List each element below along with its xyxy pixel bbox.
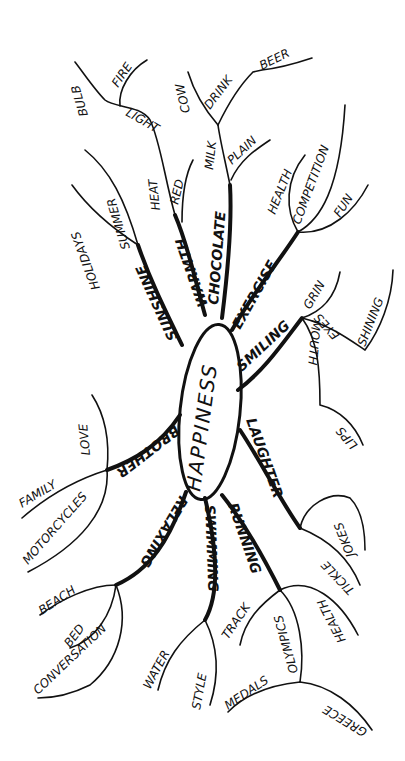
branch-label: LAUGHTER <box>243 416 286 500</box>
leaf-label: STYLE <box>189 672 210 711</box>
leaf-label: COMPETITION <box>290 143 332 226</box>
branch-sunshine: SUNSHINE HOLIDAYS SUMMER <box>68 150 182 345</box>
branch-label: RELAXING <box>137 493 191 569</box>
leaf-label: OLYMPICS <box>271 613 301 675</box>
leaf-label: COW <box>172 81 192 114</box>
branch-label: RUNNING <box>225 501 264 576</box>
branch-label: EXERCISE <box>229 257 280 331</box>
leaf-label: FIRE <box>109 60 136 90</box>
branch-label: SWIMMING <box>202 504 222 592</box>
mind-map: HAPPINESS SUNSHINE HOLIDAYS SUMMER WARMT… <box>0 0 405 761</box>
leaf-label: LIGHT <box>124 105 164 136</box>
leaf-label: TICKLE <box>318 558 357 598</box>
leaf-label: RED <box>167 178 187 206</box>
leaf-label: HOLIDAYS <box>68 229 102 292</box>
leaf-label: TRACK <box>219 600 254 642</box>
branch-label: WARMTH <box>172 236 211 309</box>
leaf-label: FUN <box>331 191 356 219</box>
branch-running: RUNNING TRACK OLYMPICS MEDALS GREECE HEA… <box>219 495 372 739</box>
center-node: HAPPINESS <box>171 321 249 502</box>
leaf-label: HEALTH <box>315 597 349 645</box>
leaf-label: JOKES <box>331 520 358 561</box>
branch-swimming: SWIMMING WATER STYLE <box>140 498 221 711</box>
leaf-label: GREECE <box>320 702 369 739</box>
leaf-label: GRIN <box>300 278 327 311</box>
leaf-label: WATER <box>140 648 172 692</box>
leaf-label: LIPS <box>333 424 360 452</box>
leaf-label: LOVE <box>76 423 93 456</box>
leaf-label: HEAT <box>146 177 163 211</box>
branch-label: BROTHER <box>114 423 183 481</box>
branch-label: SUNSHINE <box>132 262 180 343</box>
leaf-label: HEALTH <box>265 167 295 216</box>
leaf-label: BEACH <box>36 583 78 618</box>
leaf-label: MEDALS <box>222 673 271 713</box>
leaf-label: MILK <box>202 139 219 170</box>
leaf-label: BULB <box>68 84 91 119</box>
leaf-label: DRINK <box>201 72 236 112</box>
